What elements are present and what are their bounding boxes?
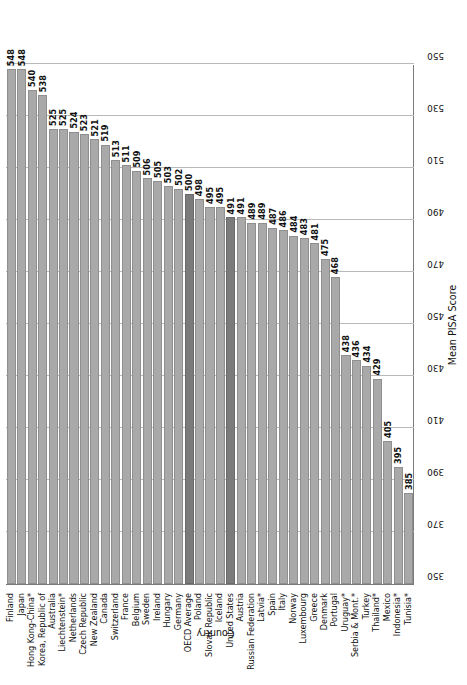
category-label: Canada <box>100 593 109 624</box>
bar[interactable] <box>205 207 214 584</box>
bar[interactable] <box>111 160 120 584</box>
bar-row[interactable]: 509 <box>132 64 141 584</box>
bar-row[interactable]: 498 <box>195 64 204 584</box>
bar[interactable] <box>258 223 267 584</box>
bar[interactable] <box>195 199 204 584</box>
bar-row[interactable]: 429 <box>373 64 382 584</box>
category-label: Japan <box>17 593 26 616</box>
bar-row[interactable]: 538 <box>38 64 47 584</box>
bar-value-label: 489 <box>257 203 267 220</box>
bar[interactable] <box>268 228 277 584</box>
category-label: Tunisia* <box>404 593 413 625</box>
bar-row[interactable]: 385 <box>404 64 413 584</box>
bar-row[interactable]: 525 <box>59 64 68 584</box>
bar[interactable] <box>300 238 309 584</box>
category-axis-title: Country <box>156 628 276 639</box>
bar-row[interactable]: 524 <box>69 64 78 584</box>
bar[interactable] <box>216 207 225 584</box>
bar[interactable] <box>49 129 58 584</box>
bar-row[interactable]: 525 <box>49 64 58 584</box>
plot-area: 5485485405385255255245235215195135115095… <box>6 65 414 585</box>
bar[interactable] <box>59 129 68 584</box>
bar-row[interactable]: 468 <box>331 64 340 584</box>
bar[interactable] <box>394 467 403 584</box>
bar[interactable] <box>383 441 392 584</box>
bar-row[interactable]: 502 <box>174 64 183 584</box>
category-label: Mexico <box>383 593 392 621</box>
bar-row[interactable]: 481 <box>310 64 319 584</box>
bar-row[interactable]: 491 <box>237 64 246 584</box>
bar-row[interactable]: 523 <box>80 64 89 584</box>
bar[interactable] <box>341 355 350 584</box>
bar-row[interactable]: 489 <box>247 64 256 584</box>
bar-row[interactable]: 500 <box>185 64 194 584</box>
category-label: Spain <box>268 593 277 616</box>
bar[interactable] <box>17 69 26 584</box>
score-axis-ticks: 550530510490470450430410390370350 <box>416 65 450 585</box>
bar-value-label: 509 <box>132 151 142 168</box>
bar[interactable] <box>352 360 361 584</box>
category-label: New Zealand <box>90 593 99 646</box>
category-label: Norway <box>289 593 298 624</box>
bar-row[interactable]: 548 <box>7 64 16 584</box>
bar[interactable] <box>153 181 162 584</box>
bar-row[interactable]: 434 <box>362 64 371 584</box>
bar-row[interactable]: 513 <box>111 64 120 584</box>
bar[interactable] <box>69 132 78 584</box>
bar-row[interactable]: 519 <box>101 64 110 584</box>
bar[interactable] <box>373 379 382 584</box>
bar-row[interactable]: 521 <box>90 64 99 584</box>
bar[interactable] <box>247 223 256 584</box>
bar-value-label: 481 <box>310 223 320 240</box>
bar[interactable] <box>185 194 194 584</box>
bar[interactable] <box>7 69 16 584</box>
category-label: Hungary <box>163 593 172 628</box>
bar[interactable] <box>237 217 246 584</box>
score-tick-label: 550 <box>427 52 444 62</box>
bar-row[interactable]: 486 <box>279 64 288 584</box>
bar-value-label: 405 <box>383 421 393 438</box>
bar[interactable] <box>321 259 330 584</box>
bar[interactable] <box>404 493 413 584</box>
bar-row[interactable]: 436 <box>352 64 361 584</box>
bar-row[interactable]: 484 <box>289 64 298 584</box>
bar-row[interactable]: 548 <box>17 64 26 584</box>
bar-row[interactable]: 395 <box>394 64 403 584</box>
category-label: Germany <box>174 593 183 630</box>
bar[interactable] <box>310 243 319 584</box>
bar-value-label: 540 <box>27 70 37 87</box>
bar[interactable] <box>38 95 47 584</box>
bar-row[interactable]: 506 <box>143 64 152 584</box>
bar[interactable] <box>164 186 173 584</box>
bar-row[interactable]: 511 <box>122 64 131 584</box>
bar[interactable] <box>143 178 152 584</box>
bar-row[interactable]: 438 <box>341 64 350 584</box>
bar[interactable] <box>279 230 288 584</box>
bar-row[interactable]: 475 <box>321 64 330 584</box>
bar[interactable] <box>362 366 371 584</box>
category-label: Belgium <box>132 593 141 626</box>
bar-row[interactable]: 540 <box>28 64 37 584</box>
category-label: Finland <box>6 593 15 622</box>
bar-row[interactable]: 495 <box>205 64 214 584</box>
bar[interactable] <box>28 90 37 584</box>
bar-row[interactable]: 491 <box>226 64 235 584</box>
bar[interactable] <box>331 277 340 584</box>
bar[interactable] <box>90 139 99 584</box>
bar-row[interactable]: 495 <box>216 64 225 584</box>
bar-value-label: 511 <box>121 145 131 162</box>
bar[interactable] <box>80 134 89 584</box>
bar-row[interactable]: 487 <box>268 64 277 584</box>
bar[interactable] <box>226 217 235 584</box>
bar[interactable] <box>174 189 183 584</box>
bar-row[interactable]: 489 <box>258 64 267 584</box>
bar[interactable] <box>122 165 131 584</box>
bar-row[interactable]: 505 <box>153 64 162 584</box>
bar-row[interactable]: 405 <box>383 64 392 584</box>
bar[interactable] <box>101 145 110 584</box>
bar[interactable] <box>289 236 298 584</box>
bar-row[interactable]: 503 <box>164 64 173 584</box>
category-label: Portugal <box>330 593 339 627</box>
bar[interactable] <box>132 171 141 584</box>
bar-row[interactable]: 483 <box>300 64 309 584</box>
